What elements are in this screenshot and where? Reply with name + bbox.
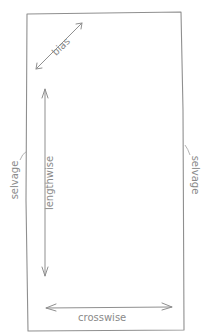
crosswise-arrow	[46, 303, 172, 311]
fabric-diagram	[0, 0, 207, 335]
crosswise-label: crosswise	[78, 313, 126, 323]
selvage-left-label: selvage	[10, 161, 20, 200]
selvage-right-leader	[185, 145, 190, 155]
lengthwise-label: lengthwise	[45, 156, 55, 210]
selvage-right-label: selvage	[190, 156, 200, 195]
